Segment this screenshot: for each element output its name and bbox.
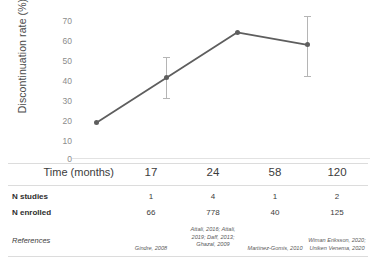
plot-region — [78, 16, 364, 160]
cell-time-120: 120 — [306, 166, 368, 178]
cell-nstudies-3: 1 — [244, 192, 306, 201]
cell-nenrolled-3: 40 — [244, 208, 306, 217]
cell-nenrolled-2: 778 — [182, 208, 244, 217]
cell-references-2: Attali, 2016; Attali, 2019; Daff, 2013; … — [182, 226, 244, 252]
cell-time-24: 24 — [182, 166, 244, 178]
cell-nenrolled-4: 125 — [306, 208, 368, 217]
y-tick-30: 30 — [46, 97, 72, 105]
error-cap-lower — [304, 76, 311, 77]
chart-area: Discontinuation rate (%) 70 60 50 40 30 … — [0, 0, 376, 165]
cell-nenrolled-1: 66 — [120, 208, 182, 217]
y-tick-40: 40 — [46, 77, 72, 85]
cell-references-4: Wiman Eriksson, 2020; Uniken Venema, 202… — [306, 226, 368, 252]
table-row: N studies 1 4 1 2 — [8, 192, 368, 201]
cell-references-1: Gindre, 2008 — [120, 226, 182, 252]
cell-time-58: 58 — [244, 166, 306, 178]
summary-table: Time (months) 17 24 58 120 N studies 1 4… — [8, 163, 368, 259]
row-label-references: References — [8, 226, 120, 252]
y-tick-10: 10 — [46, 137, 72, 145]
y-tick-70: 70 — [46, 17, 72, 25]
table-row: References Gindre, 2008 Attali, 2016; At… — [8, 226, 368, 252]
error-cap-upper — [163, 57, 170, 58]
row-label-n-enrolled: N enrolled — [8, 208, 120, 217]
y-tick-20: 20 — [46, 117, 72, 125]
error-cap-lower — [163, 98, 170, 99]
cell-nstudies-2: 4 — [182, 192, 244, 201]
table-row: Time (months) 17 24 58 120 — [8, 166, 368, 178]
y-axis-ticks: 70 60 50 40 30 20 10 0 — [44, 0, 72, 165]
y-tick-50: 50 — [46, 57, 72, 65]
error-cap-upper — [304, 16, 311, 17]
cell-references-3: Martinez-Gomis, 2010 — [244, 226, 306, 252]
table-header-rule — [8, 185, 368, 186]
table-bottom-rule — [8, 256, 368, 257]
cell-nstudies-1: 1 — [120, 192, 182, 201]
table-top-rule — [8, 163, 368, 164]
y-tick-0: 0 — [46, 155, 72, 163]
data-point — [235, 30, 240, 35]
y-axis-title: Discontinuation rate (%) — [16, 0, 28, 126]
cell-nstudies-4: 2 — [306, 192, 368, 201]
row-label-n-studies: N studies — [8, 192, 120, 201]
table-row: N enrolled 66 778 40 125 — [8, 208, 368, 217]
figure-container: Discontinuation rate (%) 70 60 50 40 30 … — [0, 0, 376, 263]
series-line-discontinuation — [78, 16, 364, 160]
row-label-time: Time (months) — [8, 166, 120, 178]
cell-time-17: 17 — [120, 166, 182, 178]
y-tick-60: 60 — [46, 37, 72, 45]
